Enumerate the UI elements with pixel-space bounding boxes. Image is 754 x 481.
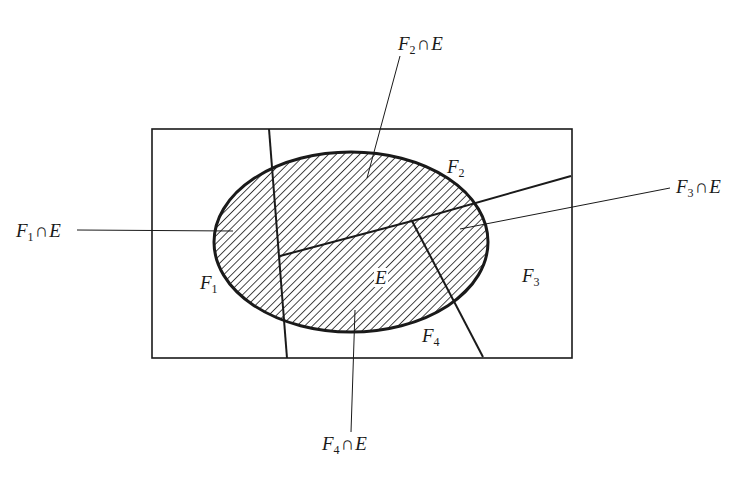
set-label-e: E [374, 268, 388, 287]
leader-f3-intersection [460, 188, 670, 229]
region-label-f4: F4 [422, 326, 440, 345]
leader-f1-intersection [77, 230, 233, 231]
region-label-f2: F2 [447, 157, 465, 176]
intersection-label-f2-e: F2∩E [398, 34, 443, 53]
intersection-label-f1-e: F1∩E [16, 221, 61, 240]
region-label-f1: F1 [200, 273, 218, 292]
partition-diagram [0, 0, 754, 481]
region-label-f3: F3 [522, 266, 540, 285]
intersection-label-f4-e: F4∩E [322, 434, 367, 453]
intersection-label-f3-e: F3∩E [676, 177, 721, 196]
